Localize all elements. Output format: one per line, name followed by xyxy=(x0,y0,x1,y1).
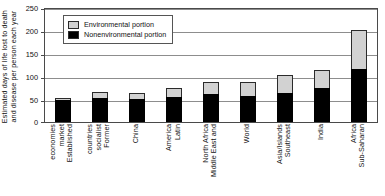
x-axis-label-3: LatinAmerica xyxy=(155,124,192,194)
x-axis-label-0: Establishedmarketeconomies xyxy=(44,124,81,194)
x-axis-label-line: India xyxy=(316,124,324,140)
x-axis-label-line: Sub-Saharan xyxy=(358,124,366,167)
legend-item-nonenvironmental: Nonenvironmental portion xyxy=(68,30,166,39)
bar-segment-nonenvironmental xyxy=(92,98,108,122)
legend-swatch-environmental xyxy=(68,21,79,29)
bar-segment-nonenvironmental xyxy=(166,97,182,122)
x-axis-label-8: Sub-SaharanAfrica xyxy=(339,124,376,194)
bar-segment-nonenvironmental xyxy=(55,100,71,122)
y-tick-250: 250 xyxy=(14,5,38,12)
x-axis-label-line: Southeast xyxy=(284,124,292,157)
bar-segment-nonenvironmental xyxy=(277,93,293,122)
bar-segment-nonenvironmental xyxy=(240,96,256,122)
y-axis-tick-labels: 250 200 150 100 50 0 xyxy=(12,0,38,196)
bar-segment-nonenvironmental xyxy=(314,88,330,122)
x-axis-label-6: SoutheastAsia/Islands xyxy=(265,124,302,194)
x-axis-label-line: North Africa xyxy=(202,124,210,163)
x-axis-category-labels: EstablishedmarketeconomiesFormersocialis… xyxy=(44,124,378,196)
x-axis-label-5: World xyxy=(228,124,265,194)
x-axis-label-line: Middle East and xyxy=(210,124,218,177)
x-axis-label-line: Latin xyxy=(173,124,181,140)
bar-4 xyxy=(203,82,219,122)
x-axis-label-line: Africa xyxy=(349,124,357,143)
legend-swatch-nonenvironmental xyxy=(68,31,79,39)
y-tick-150: 150 xyxy=(14,51,38,58)
x-axis-label-line: America xyxy=(165,124,173,151)
bar-segment-nonenvironmental xyxy=(351,69,367,122)
legend-item-environmental: Environmental portion xyxy=(68,20,166,29)
bar-7 xyxy=(314,70,330,122)
bar-5 xyxy=(240,82,256,122)
x-axis-label-line: Asia/Islands xyxy=(275,124,283,164)
y-tick-0: 0 xyxy=(14,119,38,126)
bar-1 xyxy=(92,92,108,122)
chart-container: Estimated days of life lost to death and… xyxy=(0,0,385,196)
bar-segment-nonenvironmental xyxy=(129,99,145,122)
x-axis-label-line: market xyxy=(58,124,66,147)
x-axis-label-1: Formersocialistcountries xyxy=(81,124,118,194)
x-axis-label-4: Middle East andNorth Africa xyxy=(192,124,229,194)
x-axis-label-line: World xyxy=(243,124,251,143)
bar-6 xyxy=(277,75,293,122)
bar-segment-nonenvironmental xyxy=(203,94,219,122)
x-axis-label-line: economies xyxy=(50,124,58,160)
x-axis-label-7: India xyxy=(302,124,339,194)
x-axis-label-line: China xyxy=(132,124,140,143)
y-tickmark-0 xyxy=(41,122,45,123)
y-tick-50: 50 xyxy=(14,97,38,104)
x-axis-label-line: Former xyxy=(104,124,112,148)
bar-2 xyxy=(129,93,145,122)
plot-area: Environmental portion Nonenvironmental p… xyxy=(44,8,378,123)
x-axis-label-line: countries xyxy=(87,124,95,154)
legend-label-environmental: Environmental portion xyxy=(84,21,154,29)
bar-0 xyxy=(55,98,71,122)
legend: Environmental portion Nonenvironmental p… xyxy=(63,15,173,44)
x-axis-label-2: China xyxy=(118,124,155,194)
x-axis-label-line: socialist xyxy=(95,124,103,150)
legend-label-nonenvironmental: Nonenvironmental portion xyxy=(84,31,166,39)
y-tick-100: 100 xyxy=(14,74,38,81)
bar-3 xyxy=(166,88,182,122)
y-tick-200: 200 xyxy=(14,28,38,35)
bar-8 xyxy=(351,30,367,122)
x-axis-label-line: Established xyxy=(67,124,75,162)
